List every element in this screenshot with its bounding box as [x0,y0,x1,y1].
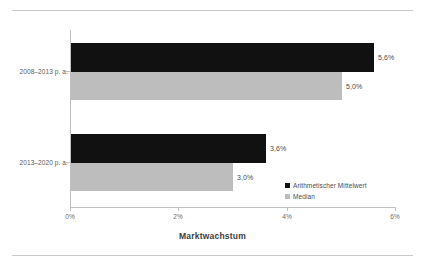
category-label-2008-2013: 2008–2013 p. a. [20,68,69,75]
x-tick-1 [178,207,179,211]
value-label-median-2013-2020: 3,0% [237,174,253,181]
bar-mean-2013-2020[interactable] [71,134,266,163]
legend-swatch-mean-icon [285,183,290,188]
value-label-median-2008-2013: 5,0% [346,83,362,90]
bar-median-2008-2013[interactable] [71,72,342,100]
x-axis-line [70,207,395,208]
x-tick-label-0: 0% [65,213,75,220]
x-tick-label-3: 6% [390,213,400,220]
x-tick-2 [287,207,288,211]
x-axis-title: Marktwachstum [0,231,425,241]
category-label-2013-2020: 2013–2020 p. a. [20,159,69,166]
x-tick-label-1: 2% [173,213,183,220]
value-label-mean-2008-2013: 5,6% [378,54,394,61]
x-tick-label-2: 4% [282,213,292,220]
legend-label-median: Median [293,193,315,200]
chart-legend: Arithmetischer Mittelwert Median [285,180,367,202]
legend-label-mean: Arithmetischer Mittelwert [293,182,367,189]
bar-median-2013-2020[interactable] [71,163,233,191]
legend-item-median[interactable]: Median [285,191,367,202]
legend-item-mean[interactable]: Arithmetischer Mittelwert [285,180,367,191]
x-tick-3 [395,207,396,211]
bar-chart: 5,6% 5,0% 3,6% 3,0% 2008–2013 p. a. 2013… [0,0,425,263]
legend-swatch-median-icon [285,194,290,199]
value-label-mean-2013-2020: 3,6% [270,145,286,152]
x-tick-0 [70,207,71,211]
bar-mean-2008-2013[interactable] [71,43,374,72]
